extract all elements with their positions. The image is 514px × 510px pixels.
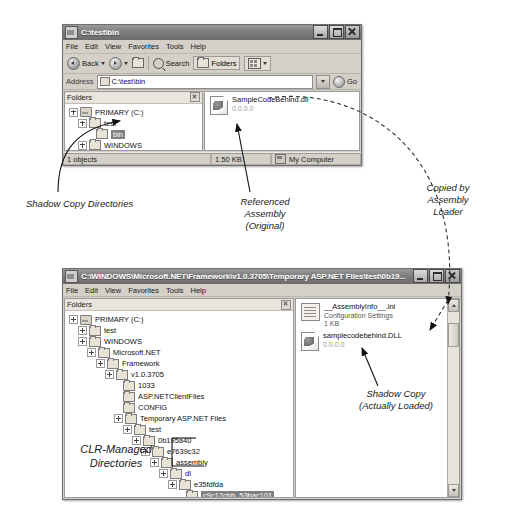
go-button[interactable]: Go (333, 76, 359, 88)
menu-item-tools-bottom[interactable]: Tools (166, 286, 184, 295)
tree-node-label: test (104, 119, 116, 128)
tree-node[interactable]: PRIMARY (C:) (69, 107, 202, 118)
folders-pane[interactable]: Folders PRIMARY (C:)testbinWINDOWS (64, 91, 203, 151)
tree-node-label: e7639c32 (167, 447, 200, 456)
back-arrow-icon (67, 57, 80, 70)
expand-plus-icon[interactable] (78, 337, 87, 346)
back-button[interactable]: Back (67, 57, 105, 70)
tree-node[interactable]: Microsoft.NET (69, 347, 293, 358)
tree-node-label: e35fdfda (194, 480, 223, 489)
menu-item-file[interactable]: File (66, 42, 78, 51)
menu-item-help-bottom[interactable]: Help (191, 286, 206, 295)
minimize-button[interactable] (313, 25, 328, 39)
forward-button[interactable] (109, 57, 128, 70)
expand-plus-icon[interactable] (123, 425, 132, 434)
annotation-referenced-assembly: Referenced Assembly (Original) (213, 196, 317, 232)
tree-node[interactable]: CONFIG (69, 402, 293, 413)
file-item[interactable]: samplecodebehind.DLL0.0.0.0 (296, 328, 459, 351)
scroll-up-button[interactable] (448, 299, 459, 312)
folder-icon (186, 491, 198, 497)
folder-icon (125, 414, 137, 424)
tree-node[interactable]: test (69, 118, 202, 129)
folder-tree[interactable]: PRIMARY (C:)testbinWINDOWS (65, 104, 202, 150)
folder-icon (89, 337, 101, 347)
folders-pane-header: Folders (65, 92, 202, 104)
expand-plus-icon[interactable] (168, 480, 177, 489)
menu-item-file-bottom[interactable]: File (66, 286, 78, 295)
chevron-down-icon[interactable] (101, 62, 105, 65)
window-controls-bottom[interactable] (413, 269, 460, 283)
tree-node-label: 1033 (138, 381, 155, 390)
scroll-down-button[interactable] (448, 484, 459, 497)
views-button[interactable] (244, 56, 271, 71)
address-dropdown-button[interactable] (316, 75, 330, 89)
menu-item-favorites[interactable]: Favorites (128, 42, 159, 51)
file-size: 1 KB (324, 320, 395, 328)
chevron-down-icon-forward[interactable] (124, 62, 128, 65)
menu-item-tools[interactable]: Tools (166, 42, 184, 51)
expand-plus-icon[interactable] (87, 348, 96, 357)
menu-item-edit[interactable]: Edit (85, 42, 98, 51)
tree-node[interactable]: WINDOWS (69, 336, 293, 347)
window-controls[interactable] (313, 25, 360, 39)
expand-plus-icon[interactable] (105, 370, 114, 379)
tree-node[interactable]: 1033 (69, 380, 293, 391)
close-button[interactable] (345, 25, 360, 39)
tree-node[interactable]: Framework (69, 358, 293, 369)
close-folders-pane-icon-bottom[interactable] (281, 300, 291, 310)
file-item[interactable]: __AssemblyInfo__.iniConfiguration Settin… (296, 299, 459, 328)
tree-node[interactable]: v1.0.3705 (69, 369, 293, 380)
expand-plus-icon[interactable] (96, 359, 105, 368)
tree-node[interactable]: test (69, 424, 293, 435)
title-bar[interactable]: C:\test\bin (63, 25, 361, 40)
file-list[interactable]: SampleCodeBehind.dll0.0.0.0 (205, 92, 359, 115)
tree-node[interactable]: Temporary ASP.NET Files (69, 413, 293, 424)
up-button[interactable] (132, 58, 144, 68)
tree-node[interactable]: c9c17cbb_53bac101 (69, 490, 293, 497)
views-chevron-down-icon[interactable] (263, 62, 267, 65)
title-bar-bottom[interactable]: C:\WINDOWS\Microsoft.NET\Framework\v1.0.… (63, 269, 461, 284)
menu-item-view[interactable]: View (105, 42, 121, 51)
tree-node[interactable]: bin (69, 129, 202, 140)
menu-bar[interactable]: File Edit View Favorites Tools Help (63, 40, 361, 54)
tree-node[interactable]: ASP.NETClientFiles (69, 391, 293, 402)
expand-plus-icon[interactable] (69, 315, 78, 324)
menu-item-edit-bottom[interactable]: Edit (85, 286, 98, 295)
tree-node[interactable]: test (69, 325, 293, 336)
search-button[interactable]: Search (153, 58, 190, 69)
file-list-bottom[interactable]: __AssemblyInfo__.iniConfiguration Settin… (296, 299, 459, 351)
menu-item-help[interactable]: Help (191, 42, 206, 51)
toolbar-separator (148, 56, 149, 70)
minimize-button-bottom[interactable] (413, 269, 428, 283)
file-list-pane[interactable]: SampleCodeBehind.dll0.0.0.0 (204, 91, 360, 151)
expand-plus-icon[interactable] (114, 414, 123, 423)
close-button-bottom[interactable] (445, 269, 460, 283)
expand-plus-icon[interactable] (69, 108, 78, 117)
ini-icon (301, 303, 320, 321)
tree-node[interactable]: PRIMARY (C:) (69, 314, 293, 325)
scrollbar-thumb[interactable] (448, 323, 459, 347)
toolbar[interactable]: Back Search Folders (63, 54, 361, 75)
maximize-button-bottom[interactable] (429, 269, 444, 283)
folders-icon (197, 58, 209, 68)
window-title-bottom: C:\WINDOWS\Microsoft.NET\Framework\v1.0.… (81, 272, 410, 281)
tree-node-label: CONFIG (138, 403, 167, 412)
address-bar[interactable]: Address C:\test\bin Go (63, 74, 361, 90)
file-meta: __AssemblyInfo__.iniConfiguration Settin… (324, 303, 395, 328)
expand-plus-icon[interactable] (78, 326, 87, 335)
folders-button[interactable]: Folders (193, 56, 240, 70)
expand-plus-icon[interactable] (78, 119, 87, 128)
tree-node[interactable]: WINDOWS (69, 140, 202, 150)
menu-bar-bottom[interactable]: File Edit View Favorites Tools Help (63, 284, 461, 298)
explorer-window-top[interactable]: C:\test\bin File Edit View Favorites Too… (62, 24, 362, 166)
folder-icon (89, 140, 101, 150)
close-folders-pane-icon[interactable] (190, 92, 200, 102)
tree-node[interactable]: e35fdfda (69, 479, 293, 490)
annotation-shadow-copy-directories: Shadow Copy Directories (26, 198, 133, 210)
menu-item-favorites-bottom[interactable]: Favorites (128, 286, 159, 295)
expand-plus-icon[interactable] (78, 141, 87, 150)
file-item[interactable]: SampleCodeBehind.dll0.0.0.0 (205, 92, 359, 115)
maximize-button[interactable] (329, 25, 344, 39)
address-input[interactable]: C:\test\bin (97, 75, 313, 89)
menu-item-view-bottom[interactable]: View (105, 286, 121, 295)
